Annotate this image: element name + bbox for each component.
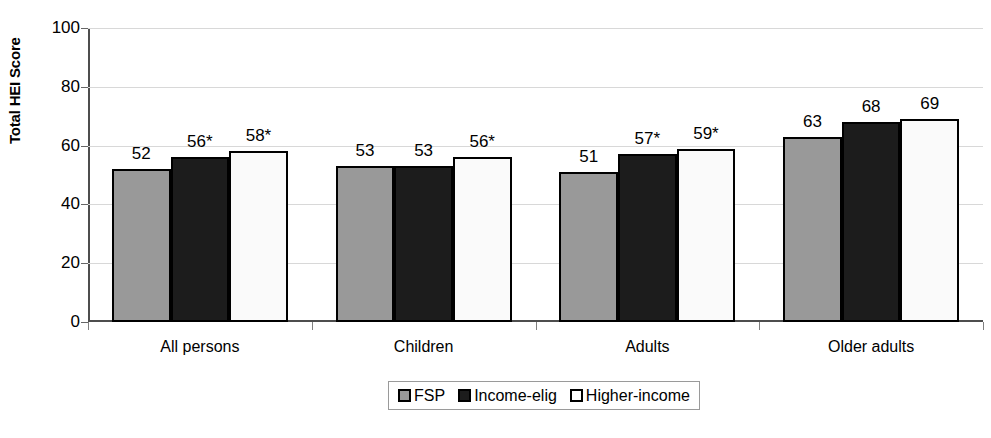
legend: FSPIncome-eligHigher-income: [388, 381, 700, 410]
bar-slot: 53: [394, 28, 453, 322]
bar-group: 5256*58*: [88, 28, 312, 322]
bar[interactable]: [842, 122, 901, 322]
y-tick-label: 80: [14, 78, 88, 95]
bar[interactable]: [394, 166, 453, 322]
legend-swatch-icon: [458, 389, 471, 402]
bar[interactable]: [900, 119, 959, 322]
y-axis: 020406080100: [0, 28, 88, 322]
bar[interactable]: [783, 137, 842, 322]
x-category-label: Adults: [536, 338, 760, 356]
bar-value-label: 58*: [246, 127, 272, 144]
y-tick-mark: [81, 322, 88, 323]
plot-area: 5256*58*535356*5157*59*636869: [88, 28, 983, 322]
y-tick-mark: [81, 204, 88, 205]
bar[interactable]: [677, 149, 736, 322]
legend-label: Income-elig: [474, 388, 557, 404]
bar-value-label: 56*: [187, 133, 213, 150]
bar[interactable]: [559, 172, 618, 322]
bar-group-bars: 535356*: [312, 28, 536, 322]
x-category-label: All persons: [88, 338, 312, 356]
bar-value-label: 69: [920, 95, 939, 112]
bar-slot: 53: [336, 28, 395, 322]
y-tick-mark: [81, 146, 88, 147]
bar-group-bars: 5157*59*: [536, 28, 760, 322]
bar-value-label: 56*: [469, 133, 495, 150]
y-tick-label: 100: [14, 19, 88, 36]
legend-label: Higher-income: [586, 388, 690, 404]
bar-slot: 63: [783, 28, 842, 322]
bar[interactable]: [229, 151, 288, 322]
legend-swatch-icon: [398, 389, 411, 402]
bar-value-label: 53: [356, 142, 375, 159]
legend-item[interactable]: FSP: [398, 388, 445, 404]
bar-slot: 57*: [618, 28, 677, 322]
y-tick-mark: [81, 263, 88, 264]
x-tick-mark: [536, 322, 537, 330]
x-category-label: Children: [312, 338, 536, 356]
bar-chart: Total HEI Score 020406080100 5256*58*535…: [0, 0, 991, 438]
bar-slot: 56*: [171, 28, 230, 322]
legend-label: FSP: [414, 388, 445, 404]
bar-slot: 59*: [677, 28, 736, 322]
bar-value-label: 63: [803, 113, 822, 130]
x-tick-mark: [759, 322, 760, 330]
bar-slot: 58*: [229, 28, 288, 322]
y-tick-label: 60: [14, 137, 88, 154]
bar-group-bars: 5256*58*: [88, 28, 312, 322]
bar-value-label: 52: [132, 145, 151, 162]
bar-slot: 68: [842, 28, 901, 322]
y-tick-label: 20: [14, 254, 88, 271]
bar-value-label: 68: [862, 98, 881, 115]
bar-value-label: 57*: [635, 130, 661, 147]
y-tick-mark: [81, 87, 88, 88]
legend-swatch-icon: [570, 389, 583, 402]
x-tick-mark: [312, 322, 313, 330]
bar-slot: 56*: [453, 28, 512, 322]
y-tick-label: 0: [14, 313, 88, 330]
x-tick-mark: [983, 322, 984, 330]
bar-group: 5157*59*: [536, 28, 760, 322]
x-category-label: Older adults: [759, 338, 983, 356]
bar-slot: 51: [559, 28, 618, 322]
bar-slot: 52: [112, 28, 171, 322]
bar-value-label: 59*: [693, 125, 719, 142]
x-tick-mark: [88, 322, 89, 330]
y-tick-mark: [81, 28, 88, 29]
legend-item[interactable]: Higher-income: [570, 388, 690, 404]
bar[interactable]: [336, 166, 395, 322]
bar-group: 636869: [759, 28, 983, 322]
bar[interactable]: [112, 169, 171, 322]
y-tick-label: 40: [14, 195, 88, 212]
bar-value-label: 51: [579, 148, 598, 165]
bar-group: 535356*: [312, 28, 536, 322]
bar[interactable]: [453, 157, 512, 322]
bar-group-bars: 636869: [759, 28, 983, 322]
bar[interactable]: [171, 157, 230, 322]
bar-slot: 69: [900, 28, 959, 322]
bar-value-label: 53: [414, 142, 433, 159]
legend-item[interactable]: Income-elig: [458, 388, 557, 404]
bar[interactable]: [618, 154, 677, 322]
